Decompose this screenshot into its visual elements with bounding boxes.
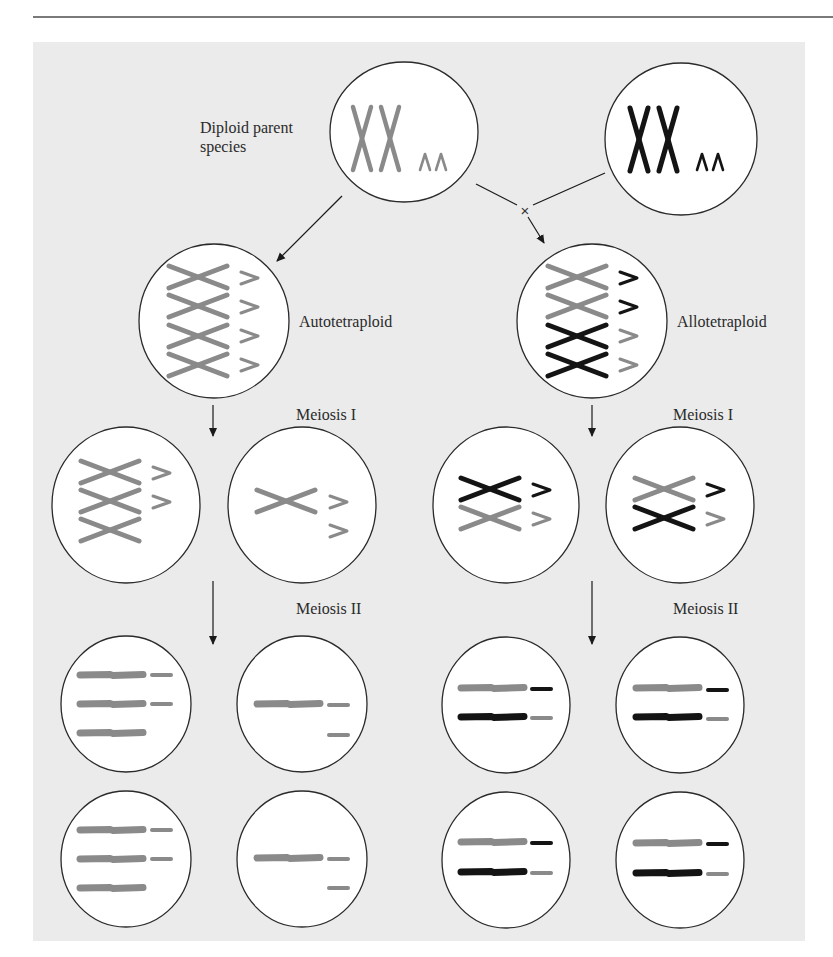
cell-allo-m2-a1 [442,637,570,773]
chromatid-long [80,704,143,705]
meiosis-1-label-right: Meiosis I [673,405,733,424]
chromatid-long [80,888,143,889]
chromatid-long [80,859,143,860]
chromatid-long [461,842,524,843]
cell-allo-m2-b2 [616,792,744,928]
chromatid-long [257,704,320,705]
cell-allo-m2-a2 [442,792,570,928]
cell-autotetraploid [139,244,289,398]
chromatid-long [461,688,524,689]
polyploidy-diagram: × [0,0,833,957]
cell-parent-b [605,63,757,215]
chromatid-long [80,830,143,831]
arrow-parent-a-to-cross [476,184,517,205]
cell-parent-a [330,62,478,202]
arrow-cross-to-allo [528,217,544,243]
cell-allo-m1-b [606,427,754,583]
chromatid-long [257,858,320,859]
chromatid-long [461,872,524,873]
chromatid-long [461,717,524,718]
cell-allo-m2-b1 [616,637,744,773]
cell-allo-m1-a [433,427,579,583]
meiosis-2-label-left: Meiosis II [296,599,361,618]
chromatid-long [80,733,143,734]
arrow-parent-b-to-cross [533,173,605,205]
allotetraploid-label: Allotetraploid [677,312,767,331]
chromatid-long [636,688,699,689]
meiosis-2-label-right: Meiosis II [673,599,738,618]
cross-symbol: × [521,202,530,219]
arrow-parent-to-auto [277,196,342,261]
diploid-parent-label: Diploid parent species [200,118,310,156]
chromatid-long [636,873,699,874]
autotetraploid-label: Autotetraploid [299,312,392,331]
chromatid-long [80,675,143,676]
meiosis-1-label-left: Meiosis I [296,405,356,424]
chromatid-long [636,717,699,718]
cell-allotetraploid [517,244,667,398]
chromatid-long [636,843,699,844]
